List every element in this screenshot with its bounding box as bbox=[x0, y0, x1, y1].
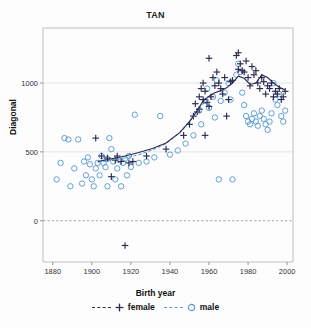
x-tick-label: 1900 bbox=[81, 267, 103, 276]
plus-icon bbox=[115, 303, 124, 312]
x-tick-label: 1920 bbox=[120, 267, 142, 276]
chart-figure: TAN Diagonal Birth year 1880190019201940… bbox=[0, 0, 311, 328]
circle-icon bbox=[187, 303, 196, 312]
y-axis-label: Diagonal bbox=[8, 82, 18, 152]
x-tick-label: 1980 bbox=[237, 267, 259, 276]
x-tick-label: 2000 bbox=[276, 267, 298, 276]
x-tick-label: 1960 bbox=[198, 267, 220, 276]
x-tick-label: 1940 bbox=[159, 267, 181, 276]
chart-legend: female male bbox=[0, 303, 311, 312]
y-tick-label: 1000 bbox=[10, 79, 38, 88]
x-tick-label: 1880 bbox=[42, 267, 64, 276]
legend-label-male: male bbox=[200, 303, 219, 312]
gridlines bbox=[43, 83, 293, 221]
legend-line-male bbox=[164, 307, 183, 308]
legend-item-female[interactable]: female bbox=[92, 303, 155, 312]
plot-canvas bbox=[0, 0, 311, 328]
y-tick-label: 0 bbox=[10, 217, 38, 226]
legend-label-female: female bbox=[128, 303, 155, 312]
male-scatter-points bbox=[54, 61, 288, 189]
y-tick-label: 500 bbox=[10, 148, 38, 157]
male-fit-curve bbox=[98, 100, 209, 163]
female-fit-curve bbox=[98, 75, 286, 162]
legend-item-male[interactable]: male bbox=[164, 303, 219, 312]
x-axis-label: Birth year bbox=[0, 288, 311, 298]
legend-line-female bbox=[92, 307, 111, 308]
